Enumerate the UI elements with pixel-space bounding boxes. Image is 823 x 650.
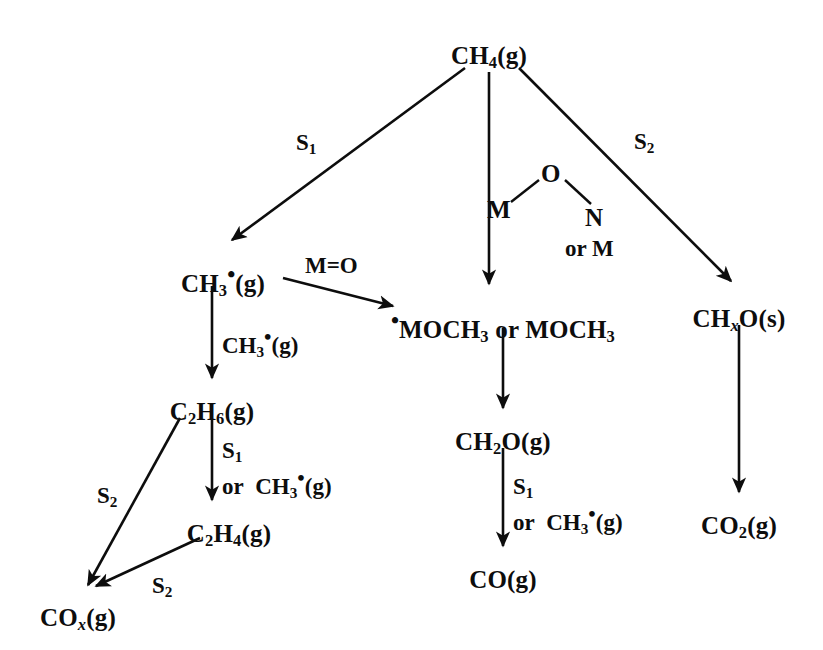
m-o-n-bonds-icon bbox=[487, 152, 657, 244]
mon-or-m-label: or M bbox=[565, 236, 614, 262]
arrow-ch4-to-ch3 bbox=[232, 68, 465, 240]
arrow-c2h4-to-cox bbox=[96, 538, 200, 586]
node-chxo: CHxO(s) bbox=[693, 305, 786, 336]
arrow-ch3-to-mochs bbox=[283, 278, 393, 306]
node-cox: COx(g) bbox=[40, 604, 116, 635]
edge-label-s2-left: S2 bbox=[97, 483, 117, 510]
edge-label-m-double-o: M=O bbox=[305, 253, 358, 279]
edge-label-m-o-n-structure: M O N or M bbox=[487, 152, 657, 244]
node-ch3-radical: CH3•(g) bbox=[181, 262, 265, 301]
edge-label-s1-or-ch3-mid: S1or CH3•(g) bbox=[513, 473, 623, 538]
node-c2h4: C2H4(g) bbox=[187, 520, 272, 551]
node-ch4: CH4(g) bbox=[451, 42, 527, 73]
mon-atom-o: O bbox=[541, 160, 560, 188]
node-c2h6: C2H6(g) bbox=[170, 398, 255, 429]
mon-atom-m: M bbox=[487, 196, 511, 224]
node-co: CO(g) bbox=[469, 566, 537, 594]
reaction-scheme-diagram: CH4(g) CH3•(g) •MOCH3 or MOCH3 CHxO(s) C… bbox=[0, 0, 823, 650]
node-co2: CO2(g) bbox=[701, 512, 777, 543]
edge-label-s1-or-ch3-left: S1or CH3•(g) bbox=[222, 437, 332, 502]
node-ch2o: CH2O(g) bbox=[455, 428, 551, 459]
edge-label-ch3-radical: CH3•(g) bbox=[222, 326, 298, 360]
mon-atom-n: N bbox=[585, 204, 603, 232]
node-mochs: •MOCH3 or MOCH3 bbox=[391, 308, 615, 347]
edge-label-s2-bottom: S2 bbox=[152, 573, 172, 600]
edge-label-s1-top: S1 bbox=[296, 130, 316, 157]
